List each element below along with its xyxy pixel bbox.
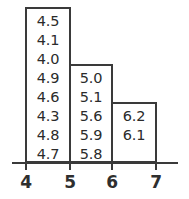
x-axis-tick-5	[69, 157, 71, 170]
bar-value-label: 4.1	[37, 31, 59, 50]
bar-value-label: 4.6	[37, 88, 59, 107]
bar-value-label: 4.3	[37, 107, 59, 126]
x-axis-tick-6	[111, 157, 113, 170]
bar-value-label: 5.1	[80, 88, 102, 107]
x-axis-tick-label: 4	[15, 172, 37, 192]
x-axis-tick-label: 7	[145, 172, 167, 192]
bar-value-label: 4.0	[37, 50, 59, 69]
bar-value-label: 4.8	[37, 126, 59, 145]
bar-value-label: 6.2	[123, 107, 145, 126]
x-axis-tick-7	[155, 157, 157, 170]
bar-category-4: 4.5 4.1 4.0 4.9 4.6 4.3 4.8 4.7	[25, 7, 71, 163]
bar-value-label: 5.9	[80, 126, 102, 145]
bar-category-6: 6.2 6.1	[111, 102, 157, 163]
bar-value-label: 4.5	[37, 12, 59, 31]
bar-value-label: 5.0	[80, 69, 102, 88]
histogram-chart: 4.5 4.1 4.0 4.9 4.6 4.3 4.8 4.7 5.0 5.1 …	[0, 0, 189, 199]
x-axis-tick-label: 5	[59, 172, 81, 192]
bar-value-label: 6.1	[123, 126, 145, 145]
bar-category-5: 5.0 5.1 5.6 5.9 5.8	[69, 64, 113, 163]
bar-value-label: 5.6	[80, 107, 102, 126]
bar-value-label: 4.9	[37, 69, 59, 88]
x-axis-tick-4	[25, 157, 27, 170]
x-axis-line	[12, 162, 178, 164]
x-axis-tick-label: 6	[101, 172, 123, 192]
